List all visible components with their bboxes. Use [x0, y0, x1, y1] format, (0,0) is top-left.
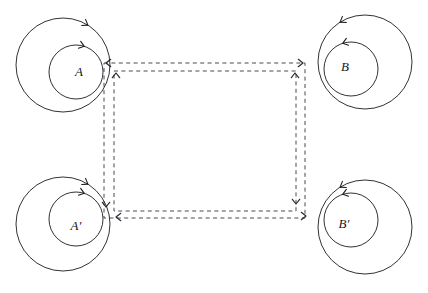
- node-A-prime-outer-circle: [16, 177, 110, 271]
- dashed-arrowhead: [112, 73, 119, 78]
- dashed-arrowhead-group: [102, 59, 306, 220]
- node-A-outer-circle: [16, 18, 110, 112]
- dashed-circuit-outer: [104, 63, 305, 218]
- node-B-outer-circle: [318, 15, 412, 109]
- dashed-arrowhead: [291, 73, 298, 78]
- dashed-arrowhead: [116, 213, 121, 220]
- node-A-prime: A′: [16, 177, 110, 271]
- commutative-diagram: A B A′ B′: [0, 0, 428, 293]
- node-B-prime-inner-circle: [324, 193, 378, 247]
- node-B-prime-outer-circle: [318, 180, 412, 274]
- node-A-prime-label: A′: [70, 218, 82, 233]
- node-B-label: B: [341, 59, 349, 74]
- node-A: A: [16, 18, 110, 112]
- node-B-prime-label: B′: [339, 216, 350, 231]
- node-B: B: [318, 15, 412, 109]
- dashed-circuit-inner: [114, 71, 296, 211]
- dashed-circuit-group: [104, 63, 305, 218]
- node-A-label: A: [74, 64, 83, 79]
- node-B-prime: B′: [318, 180, 412, 274]
- diagram-canvas: A B A′ B′: [0, 0, 428, 293]
- node-B-inner-circle: [324, 42, 378, 96]
